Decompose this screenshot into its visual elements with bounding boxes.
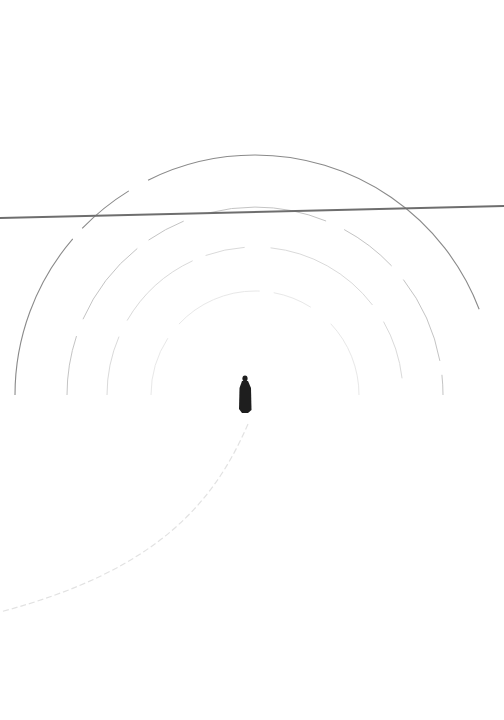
figure-head	[242, 376, 247, 382]
arc-4	[151, 291, 359, 395]
arc-3	[107, 247, 403, 395]
overhead-cable	[0, 206, 504, 218]
figure-coat	[239, 381, 252, 413]
lone-figure	[239, 376, 252, 414]
concentric-arcs	[15, 155, 495, 395]
arc-2	[67, 207, 443, 395]
photo-scene	[0, 0, 504, 720]
outer-arc	[15, 155, 495, 395]
photo-canvas	[0, 0, 504, 720]
footprint-track	[0, 424, 248, 612]
